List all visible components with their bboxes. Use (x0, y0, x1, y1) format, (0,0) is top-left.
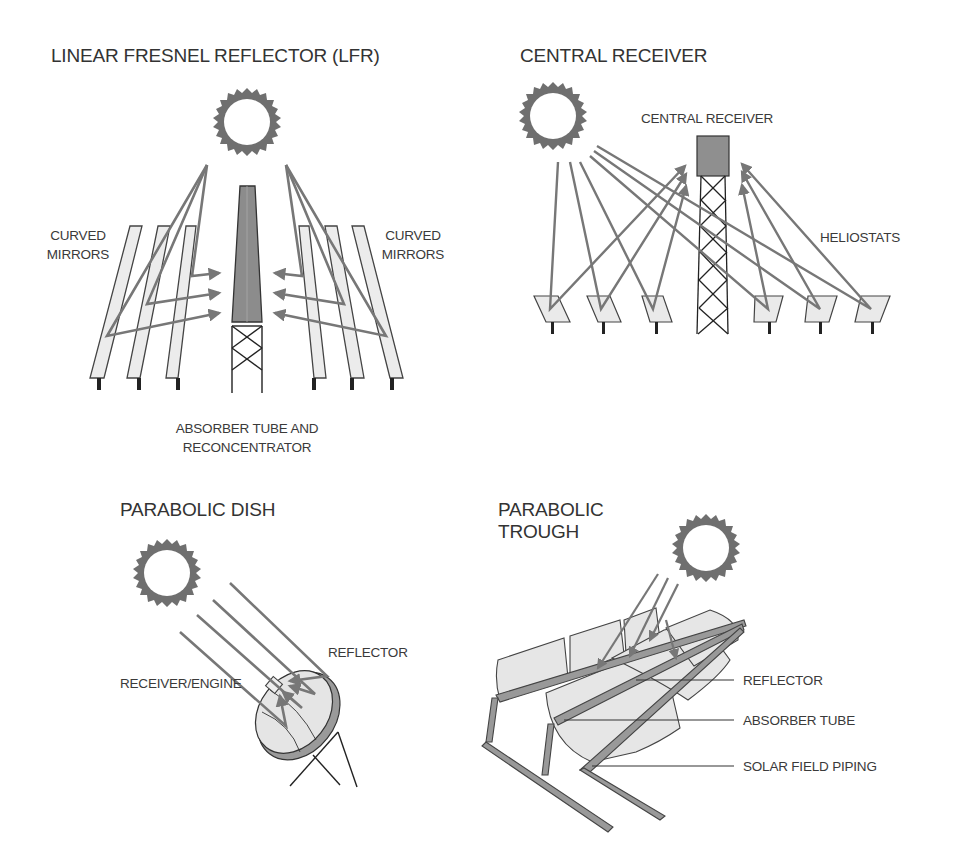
parabolic-trough-diagram (480, 480, 953, 861)
sun-icon (133, 539, 201, 607)
label-receiver-engine: RECEIVER/ENGINE (120, 674, 242, 693)
heliostat-icon (534, 296, 890, 322)
label-absorber-tube: ABSORBER TUBE (743, 711, 855, 730)
label-solar-field-piping: SOLAR FIELD PIPING (743, 757, 877, 776)
label-heliostats: HELIOSTATS (820, 228, 900, 247)
label-curved-mirrors-right: CURVED MIRRORS (378, 226, 448, 264)
panel-linear-fresnel-reflector: LINEAR FRESNEL REFLECTOR (LFR) (0, 0, 480, 460)
sun-icon (672, 514, 740, 582)
label-curved-mirrors-left: CURVED MIRRORS (43, 226, 113, 264)
label-trough-reflector: REFLECTOR (743, 671, 823, 690)
panel-parabolic-trough: PARABOLIC TROUGH (480, 480, 953, 861)
absorber-tower-icon (232, 186, 262, 393)
label-reflector: REFLECTOR (328, 643, 408, 662)
dish-reflector-icon (240, 656, 357, 776)
parabolic-dish-diagram (0, 480, 480, 861)
label-absorber-tube-reconcentrator: ABSORBER TUBE AND RECONCENTRATOR (157, 419, 337, 457)
panel-central-receiver: CENTRAL RECEIVER (480, 0, 953, 360)
label-central-receiver: CENTRAL RECEIVER (641, 109, 773, 128)
central-receiver-diagram (480, 0, 953, 360)
sun-icon (213, 88, 281, 156)
sun-icon (519, 82, 587, 150)
panel-parabolic-dish: PARABOLIC DISH REFLECTOR RECEIVER/ENGINE (0, 480, 480, 861)
